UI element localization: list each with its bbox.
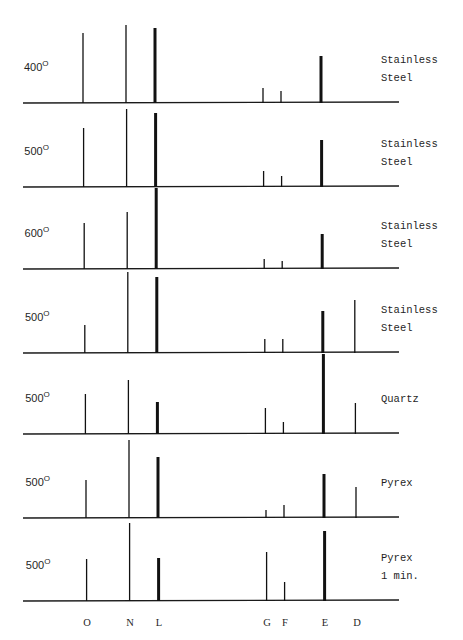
category-label-G: G (263, 617, 271, 628)
category-label-E: E (322, 617, 328, 628)
spectra-panels: 400OStainlessSteel500OStainlessSteel600O… (23, 25, 438, 601)
spectrum-panel: 500OQuartz (23, 354, 419, 434)
material-label: Stainless (381, 220, 438, 232)
temperature-label: 500O (26, 474, 51, 488)
temperature-label: 500O (25, 390, 50, 404)
temperature-label: 500O (24, 143, 49, 157)
category-label-N: N (126, 617, 134, 628)
material-label: Pyrex (381, 552, 413, 564)
material-label: 1 min. (381, 570, 419, 582)
spectrum-panel: 500OStainlessSteel (23, 109, 438, 187)
material-label: Steel (381, 156, 413, 168)
baseline (23, 186, 399, 187)
material-label: Steel (381, 238, 413, 250)
category-label-F: F (282, 617, 288, 628)
material-label: Pyrex (381, 477, 413, 489)
material-label: Quartz (381, 393, 419, 405)
baseline (23, 268, 399, 269)
spectrum-panel: 600OStainlessSteel (23, 188, 438, 269)
temperature-label: 500O (25, 309, 50, 323)
material-label: Stainless (381, 54, 438, 66)
material-label: Stainless (381, 304, 438, 316)
material-label: Stainless (381, 138, 438, 150)
category-label-O: O (83, 617, 91, 628)
baseline (23, 433, 399, 434)
spectrum-panel: 500OStainlessSteel (23, 272, 438, 353)
temperature-label: 400O (24, 59, 49, 73)
temperature-label: 500O (26, 557, 51, 571)
spectrum-panel: 500OPyrex1 min. (23, 523, 419, 601)
temperature-label: 600O (25, 225, 50, 239)
baseline (23, 352, 399, 353)
baseline (23, 102, 399, 103)
material-label: Steel (381, 72, 413, 84)
material-label: Steel (381, 322, 413, 334)
spectra-chart: 400OStainlessSteel500OStainlessSteel600O… (0, 0, 463, 640)
spectrum-panel: 500OPyrex (23, 440, 413, 518)
x-axis-labels: ONLGFED (83, 617, 361, 628)
baseline (23, 600, 399, 601)
category-label-L: L (156, 617, 162, 628)
spectrum-panel: 400OStainlessSteel (23, 25, 438, 103)
baseline (23, 517, 399, 518)
category-label-D: D (353, 617, 361, 628)
